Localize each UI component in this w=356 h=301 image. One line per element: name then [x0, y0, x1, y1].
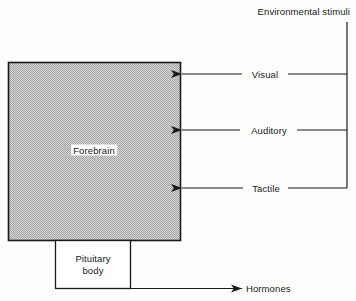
input-label-tactile: Tactile	[250, 183, 282, 194]
pituitary-label: Pituitary body	[75, 253, 110, 276]
output-label-hormones: Hormones	[246, 283, 291, 294]
pituitary-label-line2: body	[75, 264, 110, 276]
input-label-visual: Visual	[250, 69, 280, 80]
diagram-title: Environmental stimuli	[258, 6, 350, 17]
input-label-auditory: Auditory	[249, 125, 289, 136]
diagram-canvas	[0, 0, 356, 301]
pituitary-label-line1: Pituitary	[75, 253, 110, 265]
brain-stimuli-diagram: Environmental stimuli Visual Auditory Ta…	[0, 0, 356, 301]
forebrain-label: Forebrain	[71, 145, 117, 156]
